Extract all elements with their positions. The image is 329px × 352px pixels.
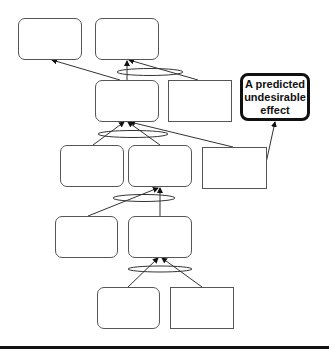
arrow-n4-n2 — [129, 60, 198, 80]
node-n4 — [168, 80, 232, 122]
and-ellipse-4 — [128, 266, 192, 272]
arrow-n9-n7 — [88, 188, 158, 216]
node-n8 — [202, 147, 267, 189]
and-ellipse-3 — [113, 195, 175, 202]
node-n2 — [95, 18, 159, 60]
node-n3 — [95, 80, 159, 122]
arrow-n3-n1 — [52, 60, 120, 80]
cause-effect-diagram: A predicted undesirable effect — [0, 0, 329, 352]
bottom-rule — [0, 346, 329, 349]
node-n7 — [128, 145, 192, 187]
undesirable-effect-node: A predicted undesirable effect — [240, 73, 310, 121]
node-n11 — [97, 287, 160, 329]
arrow-n11-n10 — [128, 258, 158, 287]
effect-label: A predicted undesirable effect — [244, 78, 306, 117]
arrow-n8-n5 — [266, 122, 275, 163]
node-n1 — [18, 18, 82, 60]
node-n10 — [128, 216, 192, 258]
node-n12 — [170, 287, 234, 329]
node-n9 — [55, 216, 118, 258]
arrow-n12-n10 — [162, 258, 202, 287]
node-n6 — [60, 145, 124, 187]
